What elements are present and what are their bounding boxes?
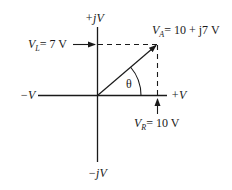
axis-label-positive-real: +V: [171, 89, 186, 101]
theta-label: θ: [126, 78, 132, 90]
va-value: = 10 + j7 V: [164, 23, 219, 37]
axis-label-positive-imaginary: +jV: [85, 12, 104, 24]
vl-value: = 7 V: [40, 37, 67, 51]
vr-label: VR= 10 V: [134, 117, 179, 132]
vr-value: = 10 V: [146, 116, 179, 130]
theta-arc: [131, 67, 142, 96]
va-label: VA= 10 + j7 V: [152, 24, 220, 39]
vl-label: VL= 7 V: [28, 38, 67, 53]
axis-label-negative-real: −V: [20, 89, 35, 101]
axis-label-negative-imaginary: −jV: [88, 167, 107, 179]
